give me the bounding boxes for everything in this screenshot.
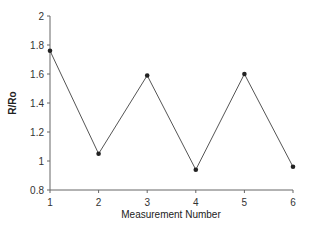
data-line bbox=[50, 51, 293, 170]
y-tick-label: 0.8 bbox=[30, 185, 44, 196]
data-point-marker bbox=[96, 151, 101, 156]
y-tick-label: 1.6 bbox=[30, 69, 44, 80]
x-tick-label: 6 bbox=[290, 197, 296, 208]
line-chart: 0.811.21.41.61.82 123456 Measurement Num… bbox=[0, 0, 313, 229]
x-axis-ticks: 123456 bbox=[47, 190, 296, 208]
data-point-marker bbox=[242, 72, 247, 77]
y-tick-label: 1 bbox=[38, 156, 44, 167]
y-axis-title: R/Ro bbox=[7, 91, 18, 114]
data-point-marker bbox=[291, 165, 296, 170]
x-axis-title: Measurement Number bbox=[121, 209, 221, 220]
y-tick-label: 2 bbox=[38, 11, 44, 22]
y-tick-label: 1.8 bbox=[30, 40, 44, 51]
y-axis-ticks: 0.811.21.41.61.82 bbox=[30, 11, 50, 196]
y-tick-label: 1.4 bbox=[30, 98, 44, 109]
x-tick-label: 3 bbox=[144, 197, 150, 208]
data-point-marker bbox=[194, 167, 199, 172]
data-point-marker bbox=[145, 73, 150, 78]
axes bbox=[50, 16, 293, 190]
data-markers bbox=[48, 49, 296, 173]
x-tick-label: 2 bbox=[96, 197, 102, 208]
data-point-marker bbox=[48, 49, 53, 54]
x-tick-label: 1 bbox=[47, 197, 53, 208]
x-tick-label: 5 bbox=[242, 197, 248, 208]
y-tick-label: 1.2 bbox=[30, 127, 44, 138]
x-tick-label: 4 bbox=[193, 197, 199, 208]
